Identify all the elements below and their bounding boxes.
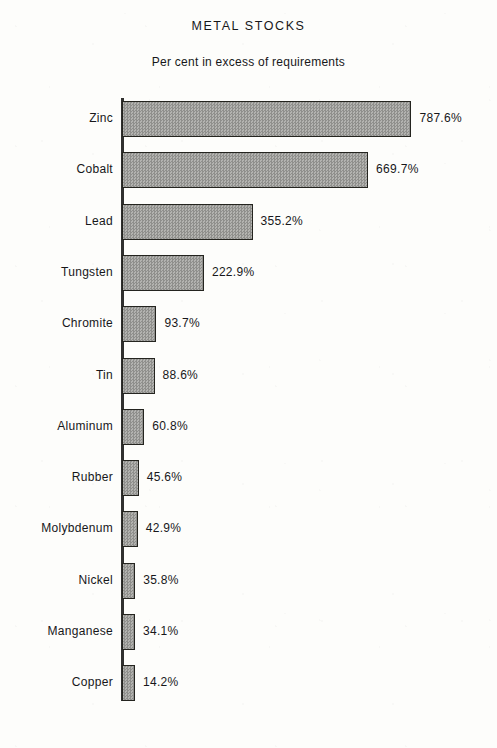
bar-lead bbox=[122, 204, 253, 240]
chart-title: METAL STOCKS bbox=[0, 19, 497, 33]
bar-row: Rubber45.6% bbox=[0, 460, 497, 496]
bar-row: Molybdenum42.9% bbox=[0, 511, 497, 547]
bar-copper bbox=[122, 665, 135, 701]
chart-subtitle: Per cent in excess of requirements bbox=[0, 55, 497, 69]
bar-cobalt bbox=[122, 152, 368, 188]
bar-value-label: 35.8% bbox=[143, 573, 179, 587]
bar-value-label: 787.6% bbox=[419, 111, 462, 125]
bar-value-label: 34.1% bbox=[143, 624, 179, 638]
bar-molybdenum bbox=[122, 511, 138, 547]
bar-category-label: Nickel bbox=[0, 573, 113, 587]
bar-value-label: 355.2% bbox=[261, 214, 304, 228]
bar-value-label: 669.7% bbox=[376, 162, 419, 176]
bar-row: Lead355.2% bbox=[0, 204, 497, 240]
bar-category-label: Rubber bbox=[0, 470, 113, 484]
bar-row: Chromite93.7% bbox=[0, 306, 497, 342]
bar-category-label: Cobalt bbox=[0, 162, 113, 176]
bar-row: Tungsten222.9% bbox=[0, 255, 497, 291]
bar-category-label: Lead bbox=[0, 214, 113, 228]
bar-category-label: Aluminum bbox=[0, 419, 113, 433]
bar-row: Nickel35.8% bbox=[0, 563, 497, 599]
bar-row: Manganese34.1% bbox=[0, 614, 497, 650]
bar-tungsten bbox=[122, 255, 204, 291]
bar-value-label: 60.8% bbox=[152, 419, 188, 433]
bar-category-label: Zinc bbox=[0, 111, 113, 125]
bar-value-label: 93.7% bbox=[164, 316, 200, 330]
bar-category-label: Copper bbox=[0, 675, 113, 689]
bar-manganese bbox=[122, 614, 135, 650]
bar-category-label: Chromite bbox=[0, 316, 113, 330]
bar-chart-plot-area: Zinc787.6%Cobalt669.7%Lead355.2%Tungsten… bbox=[0, 98, 497, 722]
bar-nickel bbox=[122, 563, 135, 599]
bar-value-label: 88.6% bbox=[163, 368, 199, 382]
bar-chromite bbox=[122, 306, 156, 342]
bar-row: Copper14.2% bbox=[0, 665, 497, 701]
bar-zinc bbox=[122, 101, 411, 137]
bar-category-label: Tungsten bbox=[0, 265, 113, 279]
bar-value-label: 222.9% bbox=[212, 265, 255, 279]
bar-aluminum bbox=[122, 409, 144, 445]
bar-row: Zinc787.6% bbox=[0, 101, 497, 137]
bar-category-label: Tin bbox=[0, 368, 113, 382]
bar-tin bbox=[122, 358, 155, 394]
baseline-axis bbox=[121, 98, 124, 701]
bar-row: Tin88.6% bbox=[0, 358, 497, 394]
bar-category-label: Molybdenum bbox=[0, 521, 113, 535]
bar-value-label: 45.6% bbox=[147, 470, 183, 484]
bar-rubber bbox=[122, 460, 139, 496]
bar-category-label: Manganese bbox=[0, 624, 113, 638]
bar-value-label: 42.9% bbox=[146, 521, 182, 535]
bar-value-label: 14.2% bbox=[143, 675, 179, 689]
bar-row: Cobalt669.7% bbox=[0, 152, 497, 188]
bar-row: Aluminum60.8% bbox=[0, 409, 497, 445]
